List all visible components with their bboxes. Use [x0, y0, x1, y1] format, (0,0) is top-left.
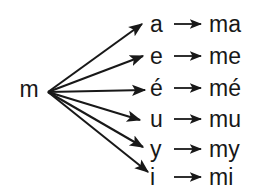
syllable-fan-diagram: m a ma e me é mé u mu y my i	[0, 0, 273, 192]
syllable-label: ma	[209, 12, 241, 36]
syllable-label: me	[209, 44, 241, 68]
maps-to-arrow-icon	[173, 15, 207, 33]
vowel-label: e	[150, 44, 174, 68]
fan-arrow-to-a	[48, 24, 142, 92]
mapping-row-5: y my	[150, 134, 240, 164]
mapping-row-6: i mi	[150, 162, 233, 192]
fan-arrow-to-e-acute	[48, 90, 145, 92]
vowel-label: é	[150, 76, 174, 100]
vowel-label: u	[150, 107, 174, 131]
vowel-label: y	[150, 137, 174, 161]
mapping-row-3: é mé	[150, 73, 241, 103]
fan-arrow-to-i	[48, 92, 148, 172]
fan-arrow-to-y	[48, 92, 143, 147]
syllable-label: mi	[209, 165, 233, 189]
fan-arrow-to-e	[48, 56, 143, 92]
maps-to-arrow-icon	[173, 110, 207, 128]
syllable-label: mu	[209, 107, 241, 131]
vowel-label: a	[150, 12, 174, 36]
maps-to-arrow-icon	[173, 79, 207, 97]
fan-arrow-to-u	[48, 92, 140, 120]
syllable-label: my	[209, 137, 240, 161]
maps-to-arrow-icon	[173, 47, 207, 65]
mapping-row-4: u mu	[150, 104, 241, 134]
vowel-label: i	[150, 165, 174, 189]
mapping-row-2: e me	[150, 41, 241, 71]
source-consonant-label: m	[14, 78, 44, 101]
syllable-label: mé	[209, 76, 241, 100]
maps-to-arrow-icon	[173, 168, 207, 186]
maps-to-arrow-icon	[173, 140, 207, 158]
mapping-row-1: a ma	[150, 9, 241, 39]
